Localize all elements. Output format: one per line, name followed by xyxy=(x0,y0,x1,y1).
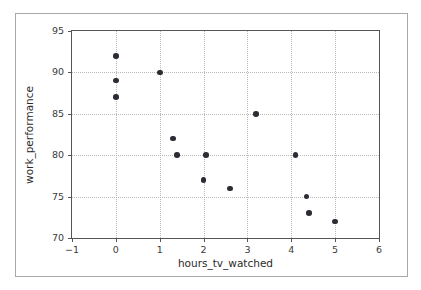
y-tick-label: 95 xyxy=(24,26,64,36)
x-tick-label: 4 xyxy=(288,245,294,255)
x-tick-label: 3 xyxy=(244,245,250,255)
scatter-point xyxy=(306,210,312,216)
scatter-point xyxy=(227,186,233,192)
y-tick-label: 85 xyxy=(24,109,64,119)
y-tick-mark xyxy=(68,31,72,32)
gridline-horizontal xyxy=(72,72,379,73)
x-tick-mark xyxy=(335,238,336,242)
scatter-point xyxy=(113,53,119,59)
y-tick-mark xyxy=(68,72,72,73)
x-tick-label: 0 xyxy=(113,245,119,255)
y-axis-title-text: work_performance xyxy=(23,86,35,184)
x-tick-mark xyxy=(247,238,248,242)
x-tick-label: 5 xyxy=(332,245,338,255)
scatter-point xyxy=(253,111,259,117)
y-tick-mark xyxy=(68,114,72,115)
scatter-point xyxy=(113,78,119,84)
gridline-horizontal xyxy=(72,155,379,156)
figure-frame: work_performance hours_tv_watched 707580… xyxy=(15,13,408,277)
scatter-point xyxy=(203,152,209,158)
y-tick-mark xyxy=(68,155,72,156)
scatter-plot-area: 707580859095−10123456 xyxy=(71,30,380,239)
x-tick-label: −1 xyxy=(65,245,79,255)
scatter-point xyxy=(170,136,176,142)
x-tick-mark xyxy=(204,238,205,242)
gridline-horizontal xyxy=(72,197,379,198)
y-axis-title: work_performance xyxy=(22,30,36,239)
x-tick-mark xyxy=(291,238,292,242)
x-tick-label: 1 xyxy=(157,245,163,255)
gridline-vertical xyxy=(204,31,205,238)
x-tick-mark xyxy=(72,238,73,242)
scatter-point xyxy=(113,94,119,100)
gridline-vertical xyxy=(291,31,292,238)
y-tick-label: 90 xyxy=(24,68,64,78)
gridline-vertical xyxy=(160,31,161,238)
y-tick-label: 75 xyxy=(24,192,64,202)
scatter-point xyxy=(293,152,299,158)
x-tick-label: 2 xyxy=(201,245,207,255)
scatter-point xyxy=(174,152,180,158)
y-tick-label: 70 xyxy=(24,233,64,243)
x-axis-title: hours_tv_watched xyxy=(71,257,380,269)
gridline-vertical xyxy=(116,31,117,238)
x-tick-label: 6 xyxy=(376,245,382,255)
scatter-point xyxy=(201,177,207,183)
x-tick-mark xyxy=(160,238,161,242)
scatter-point xyxy=(332,219,338,225)
scatter-point xyxy=(157,70,163,76)
y-tick-mark xyxy=(68,197,72,198)
gridline-vertical xyxy=(335,31,336,238)
y-tick-label: 80 xyxy=(24,150,64,160)
x-tick-mark xyxy=(116,238,117,242)
scatter-point xyxy=(304,194,310,200)
gridline-vertical xyxy=(247,31,248,238)
x-tick-mark xyxy=(379,238,380,242)
gridline-horizontal xyxy=(72,114,379,115)
